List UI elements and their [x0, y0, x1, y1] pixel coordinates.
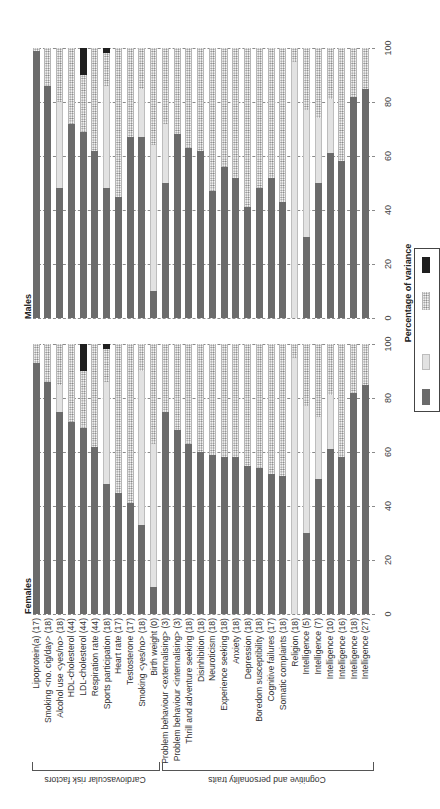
bar-segment-dark — [174, 134, 181, 318]
bar-females — [197, 344, 204, 614]
category-label: Birth weight (0) — [149, 618, 159, 778]
bar-segment-dots — [127, 344, 134, 503]
bar-segment-dots — [197, 48, 204, 151]
category-label: Neuroticism (18) — [207, 618, 217, 778]
category-label: Religion (18) — [290, 618, 300, 778]
bar-segment-dark — [91, 151, 98, 318]
bar-males — [150, 48, 157, 318]
bar-segment-dots — [232, 344, 239, 457]
bar-segment-light — [103, 86, 110, 189]
category-label: Problem behaviour <externalising> (3) — [160, 618, 170, 778]
bar-segment-dark — [103, 484, 110, 614]
category-label: HDL-cholesterol (44) — [66, 618, 76, 778]
bar-females — [244, 344, 251, 614]
males-panel-title: Males — [23, 294, 33, 319]
category-label: Heart rate (17) — [113, 618, 123, 778]
bar-females — [327, 344, 334, 614]
category-label: Respiration rate (44) — [90, 618, 100, 778]
bar-males — [56, 48, 63, 318]
bar-females — [350, 344, 357, 614]
bar-males — [256, 48, 263, 318]
bar-males — [362, 48, 369, 318]
tick-label: 100 — [383, 332, 393, 356]
bar-segment-dots — [350, 344, 357, 393]
bar-segment-dark — [268, 474, 275, 614]
bar-segment-black — [103, 48, 110, 53]
bar-females — [291, 344, 298, 614]
bar-segment-light — [56, 385, 63, 412]
bar-segment-dots — [33, 344, 40, 363]
bar-females — [115, 344, 122, 614]
legend — [414, 248, 440, 412]
bar-females — [68, 344, 75, 614]
bar-males — [338, 48, 345, 318]
bar-segment-dark — [44, 86, 51, 318]
group-label-cognitive: Cognitive and personality traits — [162, 775, 372, 785]
category-label: Problem behaviour <internalising> (3) — [172, 618, 182, 778]
bar-males — [33, 48, 40, 318]
bar-males — [327, 48, 334, 318]
bar-males — [68, 48, 75, 318]
bar-segment-dark — [268, 178, 275, 318]
bar-segment-dark — [44, 382, 51, 614]
bar-segment-dark — [315, 479, 322, 614]
bar-segment-light — [327, 395, 334, 449]
bar-females — [268, 344, 275, 614]
bar-segment-dots — [232, 48, 239, 178]
bar-segment-dots — [127, 48, 134, 137]
bar-segment-dots — [303, 344, 310, 406]
category-label: Boredom susceptibility (18) — [254, 618, 264, 778]
bar-segment-black — [80, 48, 87, 75]
bar-segment-dark — [221, 457, 228, 614]
bar-females — [256, 344, 263, 614]
tick-label: 40 — [383, 198, 393, 222]
bar-segment-dots — [221, 48, 228, 167]
bar-segment-dark — [244, 466, 251, 615]
bar-segment-dark — [56, 412, 63, 615]
bar-females — [185, 344, 192, 614]
legend-swatch-black — [422, 257, 430, 273]
legend-swatch-dark — [422, 389, 430, 405]
bar-males — [232, 48, 239, 318]
bar-females — [338, 344, 345, 614]
bar-segment-dots — [268, 48, 275, 178]
bar-males — [268, 48, 275, 318]
bar-males — [350, 48, 357, 318]
bar-segment-dots — [103, 349, 110, 381]
bar-segment-dark — [256, 468, 263, 614]
bar-segment-dark — [138, 137, 145, 318]
bar-segment-dots — [268, 344, 275, 474]
category-label: Sports participation (18) — [102, 618, 112, 778]
bar-segment-black — [80, 344, 87, 371]
bar-segment-dark — [279, 476, 286, 614]
bar-segment-dots — [91, 344, 98, 447]
bar-segment-light — [327, 99, 334, 153]
bar-segment-light — [291, 62, 298, 319]
category-label: Testosterone (17) — [125, 618, 135, 778]
cardiovascular-bracket — [32, 762, 160, 771]
tick-label: 80 — [383, 90, 393, 114]
group-label-cardiovascular: Cardiovascular risk factors — [32, 775, 158, 785]
bar-males — [162, 48, 169, 318]
bar-segment-dots — [56, 344, 63, 385]
bar-segment-dots — [209, 344, 216, 455]
x-axis-title: Percentage of variance — [403, 223, 413, 363]
legend-swatch-dots — [422, 292, 430, 310]
bar-segment-dots — [138, 344, 145, 371]
bar-segment-dots — [150, 48, 157, 145]
bar-females — [56, 344, 63, 614]
bar-segment-dots — [91, 48, 98, 151]
bar-segment-black — [103, 344, 110, 349]
category-label: Alcohol use <yes/no> (18) — [55, 618, 65, 778]
bar-segment-dots — [338, 344, 345, 457]
bar-segment-dark — [115, 493, 122, 615]
bar-segment-dark — [209, 191, 216, 318]
bar-males — [315, 48, 322, 318]
bar-males — [209, 48, 216, 318]
category-label: Intelligence (10) — [325, 618, 335, 778]
bar-females — [44, 344, 51, 614]
bar-segment-dots — [150, 344, 157, 444]
category-label: Somatic complaints (18) — [278, 618, 288, 778]
bar-segment-light — [138, 89, 145, 138]
females-panel-title: Females — [23, 578, 33, 614]
